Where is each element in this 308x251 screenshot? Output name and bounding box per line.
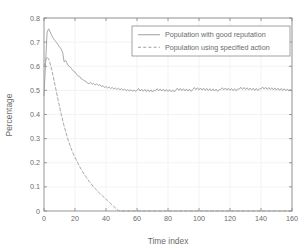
- x-axis-title: Time index: [148, 236, 189, 246]
- x-tick-label: 20: [71, 214, 79, 223]
- x-tick-label: 0: [42, 214, 46, 223]
- x-tick-label: 100: [193, 214, 205, 223]
- chart-figure: 02040608010012014016000.10.20.30.40.50.6…: [0, 0, 308, 251]
- x-tick-label: 40: [102, 214, 110, 223]
- line-chart: 02040608010012014016000.10.20.30.40.50.6…: [0, 0, 308, 251]
- y-tick-label: 0.5: [30, 86, 40, 95]
- chart-legend: Population with good reputationPopulatio…: [132, 26, 290, 56]
- x-tick-label: 160: [286, 214, 298, 223]
- x-tick-label: 80: [164, 214, 172, 223]
- x-tick-label: 60: [133, 214, 141, 223]
- y-tick-label: 0.4: [30, 110, 40, 119]
- y-tick-label: 0.3: [30, 134, 40, 143]
- legend-label-0: Population with good reputation: [165, 30, 266, 39]
- legend-label-1: Population using specified action: [165, 43, 270, 52]
- y-tick-label: 0: [36, 207, 40, 216]
- y-tick-label: 0.7: [30, 38, 40, 47]
- y-tick-label: 0.1: [30, 182, 40, 191]
- y-tick-label: 0.6: [30, 62, 40, 71]
- y-axis-title: Percentage: [4, 93, 14, 136]
- x-tick-label: 120: [224, 214, 236, 223]
- y-tick-label: 0.2: [30, 158, 40, 167]
- x-tick-label: 140: [255, 214, 267, 223]
- y-tick-label: 0.8: [30, 14, 40, 23]
